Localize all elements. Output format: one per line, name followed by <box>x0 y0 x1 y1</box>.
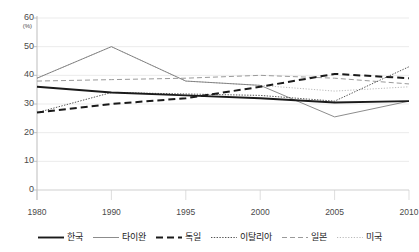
legend-swatch-icon <box>211 233 237 242</box>
x-tick-label: 2010 <box>400 208 419 217</box>
legend-item-label: 한국 <box>67 233 83 242</box>
legend-item[interactable]: 한국 <box>38 233 83 242</box>
legend-item-label: 미국 <box>366 233 382 242</box>
clipped-title-remnant <box>0 0 419 6</box>
x-tick-label: 1980 <box>28 208 47 217</box>
series-line-일본 <box>37 75 409 84</box>
legend-item-label: 이탈리아 <box>240 233 272 242</box>
legend-swatch-icon <box>93 233 119 242</box>
plot-area <box>0 14 419 204</box>
x-tick-label: 1995 <box>176 208 195 217</box>
x-tick-label: 2000 <box>251 208 270 217</box>
gridlines <box>37 18 409 190</box>
legend-swatch-icon <box>282 233 308 242</box>
series-line-미국 <box>37 47 409 91</box>
legend-item[interactable]: 이탈리아 <box>211 233 272 242</box>
x-axis-labels: 198019901995200020052010 <box>0 206 419 220</box>
legend-item-label: 일본 <box>311 233 327 242</box>
legend-item-label: 독일 <box>185 233 201 242</box>
line-chart: 6050403020100(%) 19801990199520002005201… <box>0 0 419 252</box>
legend-item[interactable]: 미국 <box>337 233 382 242</box>
x-tick-label: 2005 <box>325 208 344 217</box>
legend-item-label: 타이완 <box>122 233 146 242</box>
x-tick-label: 1990 <box>102 208 121 217</box>
legend-item[interactable]: 타이완 <box>93 233 146 242</box>
axis-lines <box>34 16 409 200</box>
plot-svg <box>0 14 419 204</box>
chart-legend: 한국타이완독일이탈리아일본미국 <box>0 228 419 246</box>
legend-swatch-icon <box>38 233 64 242</box>
legend-item[interactable]: 독일 <box>156 233 201 242</box>
series-lines <box>37 47 409 117</box>
legend-swatch-icon <box>337 233 363 242</box>
legend-item[interactable]: 일본 <box>282 233 327 242</box>
legend-swatch-icon <box>156 233 182 242</box>
